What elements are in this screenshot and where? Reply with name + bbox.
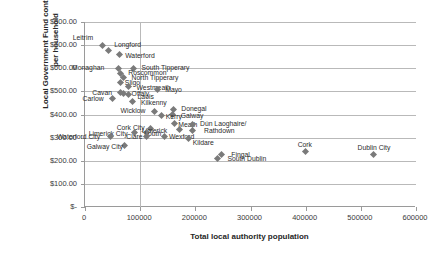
x-axis-tick-mark	[85, 207, 86, 211]
x-axis-tick-label: 0	[54, 214, 114, 222]
data-point-label: Dublin City	[358, 144, 391, 152]
data-point-marker	[105, 47, 112, 54]
y-axis-tick-label: $300.00	[50, 134, 77, 142]
y-axis-tick-mark	[81, 161, 85, 162]
y-axis-tick-mark	[81, 184, 85, 185]
data-point-label: Kildare	[193, 139, 214, 147]
x-axis-tick-label: 100000	[109, 214, 169, 222]
data-point-marker	[171, 120, 178, 127]
y-axis-tick-label: $800.00	[50, 18, 77, 26]
data-point-label: Kilkenny	[141, 99, 167, 107]
data-point-label: Mayo	[165, 86, 182, 94]
y-axis-tick-mark	[81, 45, 85, 46]
plot-area: LeitrimLongfordWaterfordMonaghanSouth Ti…	[84, 22, 415, 207]
data-point-label: Galway City	[87, 143, 123, 151]
y-axis-tick-mark	[81, 91, 85, 92]
y-axis-tick-mark	[81, 115, 85, 116]
data-point-label: Cork	[298, 141, 312, 149]
scatter-chart: Local Government Fund contitrubion per h…	[0, 0, 434, 265]
x-axis-tick-label: 300000	[220, 214, 280, 222]
x-axis-tick-label: 400000	[275, 214, 335, 222]
y-axis-tick-label: $200.00	[50, 157, 77, 165]
data-point-marker	[116, 51, 123, 58]
x-axis-tick-mark	[416, 207, 417, 211]
data-point-label: Wicklow	[121, 107, 146, 115]
x-axis-tick-mark	[306, 207, 307, 211]
y-axis-tick-mark	[81, 22, 85, 23]
x-axis-tick-label: 600000	[385, 214, 434, 222]
data-point-label: Longford	[114, 41, 141, 49]
y-axis-tick-label: $100.00	[50, 180, 77, 188]
data-point-marker	[99, 42, 106, 49]
x-axis-tick-mark	[361, 207, 362, 211]
y-axis-tick-label: $700.00	[50, 41, 77, 49]
data-point-label: Carlow	[83, 95, 104, 103]
data-point-label: Rathdown	[204, 127, 235, 135]
data-point-label: Waterford	[125, 52, 155, 60]
x-axis-tick-mark	[195, 207, 196, 211]
data-point-label: Galway	[181, 112, 204, 120]
data-point-label: South Dublin	[227, 155, 266, 163]
x-axis-tick-label: 500000	[330, 214, 390, 222]
data-point-marker	[302, 148, 309, 155]
x-axis-tick-label: 200000	[164, 214, 224, 222]
gridline-horizontal	[85, 184, 416, 185]
data-point-marker	[158, 112, 165, 119]
data-point-marker	[370, 151, 377, 158]
y-axis-tick-label: $500.00	[50, 87, 77, 95]
x-axis-tick-mark	[140, 207, 141, 211]
x-axis-title: Total local authority population	[84, 232, 415, 241]
gridline-horizontal	[85, 22, 416, 23]
data-point-label: Clare	[126, 133, 142, 141]
y-axis-tick-label: $400.00	[50, 111, 77, 119]
data-point-marker	[129, 98, 136, 105]
y-axis-tick-label: $-	[70, 203, 77, 211]
y-axis-tick-label: $600.00	[50, 64, 77, 72]
data-point-marker	[109, 95, 116, 102]
x-axis-tick-mark	[251, 207, 252, 211]
data-point-marker	[161, 133, 168, 140]
